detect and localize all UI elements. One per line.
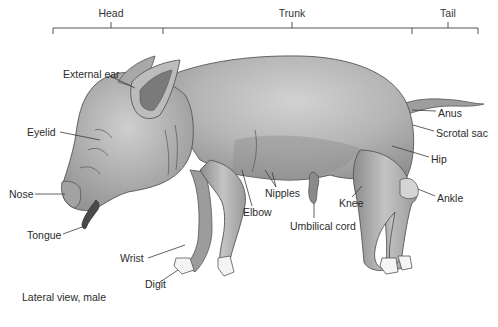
label-eyelid: Eyelid	[27, 126, 56, 138]
label-knee: Knee	[339, 197, 364, 209]
label-nipples: Nipples	[265, 187, 300, 199]
region-label-head: Head	[98, 7, 123, 19]
head	[62, 72, 193, 210]
label-ankle: Ankle	[437, 192, 463, 204]
label-wrist: Wrist	[120, 252, 144, 264]
region-label-trunk: Trunk	[279, 7, 305, 19]
front-leg-far	[185, 170, 212, 272]
region-bracket	[53, 22, 478, 34]
front-hoof-near	[218, 256, 234, 276]
label-tongue: Tongue	[27, 229, 61, 241]
front-hoof-far	[174, 258, 194, 274]
snout	[62, 181, 81, 208]
label-umbilical-cord: Umbilical cord	[290, 220, 356, 232]
region-label-tail: Tail	[440, 7, 456, 19]
fetal-pig-diagram: Head Trunk Tail External ear Eyelid Nose…	[0, 0, 498, 327]
label-external-ear: External ear	[63, 68, 120, 80]
caption: Lateral view, male	[22, 291, 106, 303]
label-digit: Digit	[145, 278, 166, 290]
hind-hoof-1	[380, 258, 398, 274]
label-hip: Hip	[431, 153, 447, 165]
ankle	[400, 178, 418, 198]
label-anus: Anus	[438, 107, 462, 119]
umbilical-cord-shape	[309, 172, 319, 204]
label-nose: Nose	[9, 188, 34, 200]
label-scrotal-sac: Scrotal sac	[436, 127, 488, 139]
label-elbow: Elbow	[243, 206, 272, 218]
pig-illustration	[0, 0, 498, 327]
